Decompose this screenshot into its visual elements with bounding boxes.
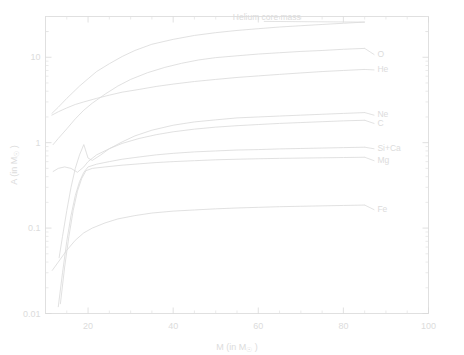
y-tick-label-10: 10 [30,52,40,62]
chart-canvas: 204060801001010.10.01M (in M☉ )A (in M☉ … [0,0,464,355]
x-tick-label-100: 100 [421,321,436,331]
curve-helium-core-mass [52,22,365,113]
x-tick-label-20: 20 [83,321,93,331]
curve-fe [52,205,364,270]
curve-he [52,69,365,115]
leader-mg [365,157,375,161]
curve-label-si-ca: Si+Ca [377,143,401,153]
x-tick-label-40: 40 [168,321,178,331]
leader-c [365,120,375,123]
series-he: He [52,64,389,115]
x-tick-label-60: 60 [253,321,263,331]
x-axis-title: M (in M☉ ) [216,342,258,353]
y-tick-label-0.01: 0.01 [23,309,41,319]
series-ne: Ne [59,109,388,257]
leader-ne [365,113,375,116]
series-c: C [53,118,383,173]
curve-label-fe: Fe [377,204,387,214]
curve-ne [59,113,365,258]
curve-label-he: He [377,64,388,74]
leader-o [365,48,375,54]
series-si-ca: Si+Ca [58,143,401,307]
leader-fe [365,205,375,210]
nucleosynthesis-yield-plot: 204060801001010.10.01M (in M☉ )A (in M☉ … [0,0,464,355]
curve-label-c: C [377,118,383,128]
leader-si-ca [365,147,375,149]
curve-si-ca [58,147,364,307]
curve-o [53,48,365,144]
plot-frame [46,17,429,314]
y-tick-label-0.1: 0.1 [28,223,41,233]
y-axis-title: A (in M☉ ) [9,145,20,185]
curve-c [53,120,365,172]
curve-label-o: O [377,49,384,59]
series-mg: Mg [60,155,389,304]
y-tick-label-1: 1 [35,138,40,148]
curve-label-mg: Mg [377,155,389,165]
series-fe: Fe [52,204,387,271]
curve-label-helium-core-mass: Helium core mass [233,12,301,22]
x-tick-label-80: 80 [338,321,348,331]
curve-mg [60,157,364,304]
